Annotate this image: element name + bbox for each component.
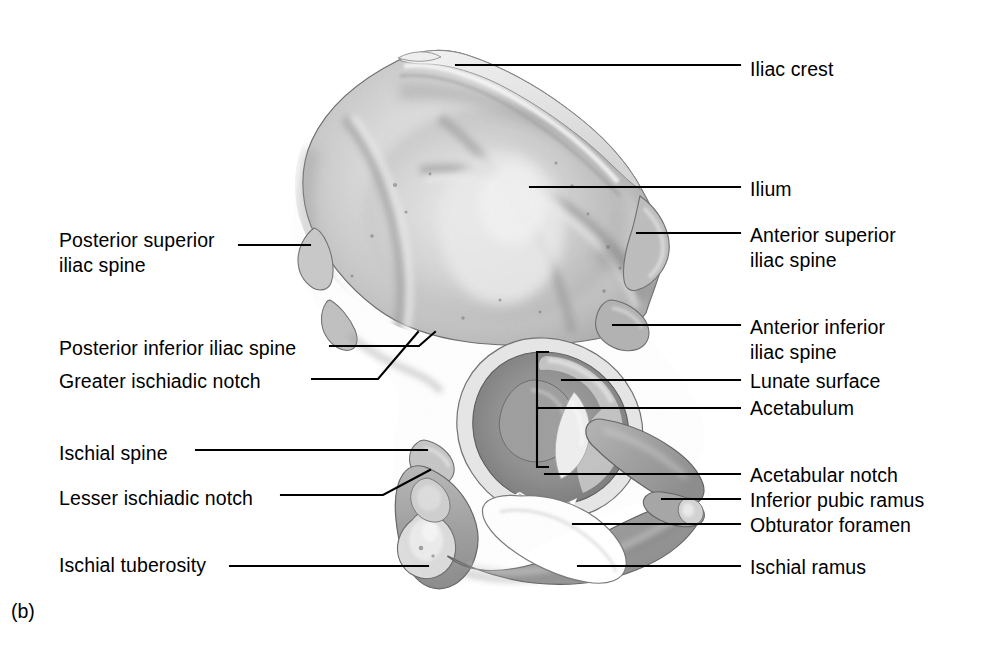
label-ischial-ramus: Ischial ramus [750,555,866,580]
label-line-1: Ilium [750,178,792,200]
label-acetabular-notch: Acetabular notch [750,463,898,488]
label-anterior-inferior-iliac-spine: Anterior inferioriliac spine [750,315,885,365]
label-lesser-ischiadic-notch: Lesser ischiadic notch [59,486,253,511]
label-line-1: Acetabulum [750,397,854,419]
label-line-1: Posterior inferior iliac spine [59,337,296,359]
acetabulum-bracket [537,352,548,467]
anatomy-figure-hip-bone: Iliac crestIliumAnterior superioriliac s… [0,0,988,670]
label-lunate-surface: Lunate surface [750,369,880,394]
label-line-1: Anterior superior [750,224,896,246]
label-line-2: iliac spine [750,341,837,363]
label-line-1: Anterior inferior [750,316,885,338]
label-line-1: Iliac crest [750,58,833,80]
leader-lesser-ischiadic-notch [281,470,430,495]
label-line-1: Greater ischiadic notch [59,370,261,392]
label-line-1: Inferior pubic ramus [750,489,924,511]
label-greater-ischiadic-notch: Greater ischiadic notch [59,369,261,394]
leader-greater-ischiadic-notch [312,332,418,379]
leader-posterior-inferior-iliac-spine [330,332,435,346]
label-ilium: Ilium [750,177,792,202]
label-iliac-crest: Iliac crest [750,57,833,82]
label-line-1: Obturator foramen [750,514,911,536]
panel-letter: (b) [11,600,35,623]
label-posterior-superior-iliac-spine: Posterior superioriliac spine [59,228,215,278]
label-ischial-tuberosity: Ischial tuberosity [59,553,206,578]
label-posterior-inferior-iliac-spine: Posterior inferior iliac spine [59,336,296,361]
label-line-1: Lesser ischiadic notch [59,487,253,509]
label-inferior-pubic-ramus: Inferior pubic ramus [750,488,924,513]
label-line-1: Posterior superior [59,229,215,251]
label-line-1: Acetabular notch [750,464,898,486]
label-obturator-foramen: Obturator foramen [750,513,911,538]
label-line-2: iliac spine [59,254,146,276]
label-line-1: Lunate surface [750,370,880,392]
label-anterior-superior-iliac-spine: Anterior superioriliac spine [750,223,896,273]
label-line-1: Ischial tuberosity [59,554,206,576]
label-line-1: Ischial spine [59,442,168,464]
label-line-1: Ischial ramus [750,556,866,578]
label-line-2: iliac spine [750,249,837,271]
label-ischial-spine: Ischial spine [59,441,168,466]
label-acetabulum: Acetabulum [750,396,854,421]
